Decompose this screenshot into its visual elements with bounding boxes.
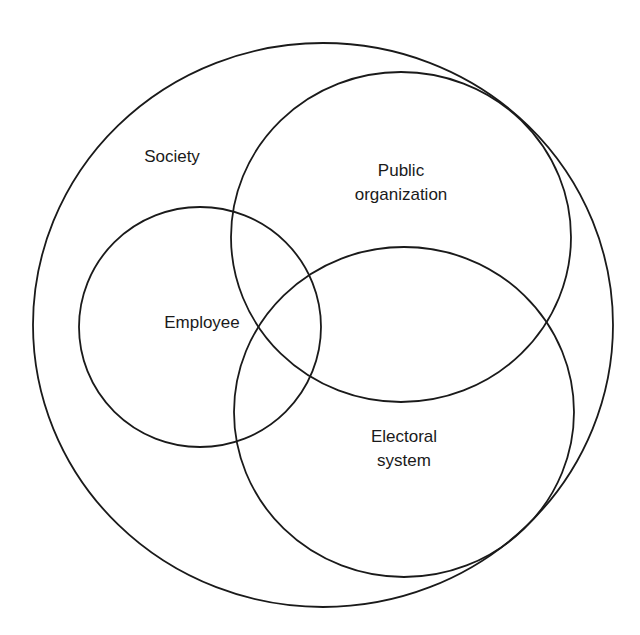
electoral-system-label-line1: Electoral	[371, 427, 437, 446]
electoral-system-label-line2: system	[377, 451, 431, 470]
public-organization-label-line1: Public	[378, 161, 425, 180]
society-circle	[33, 43, 613, 607]
society-label: Society	[144, 147, 200, 166]
public-organization-circle	[231, 72, 571, 402]
public-organization-label-line2: organization	[355, 185, 448, 204]
employee-label: Employee	[164, 313, 240, 332]
venn-diagram: Society Public organization Employee Ele…	[0, 0, 640, 635]
